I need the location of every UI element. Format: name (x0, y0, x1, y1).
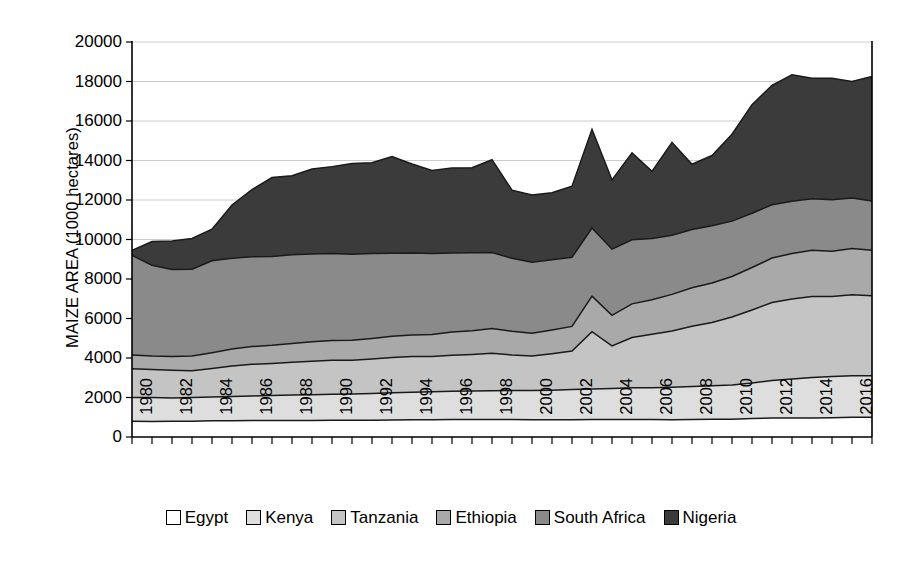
x-tick-label: 1990 (338, 378, 354, 444)
x-tick-label: 2014 (818, 378, 834, 444)
x-tick-label: 2010 (738, 378, 754, 444)
legend-swatch-icon (246, 510, 261, 525)
legend-swatch-icon (664, 510, 679, 525)
legend-item-south-africa[interactable]: South Africa (535, 509, 646, 526)
legend-label: Egypt (185, 509, 228, 526)
legend-label: Kenya (265, 509, 313, 526)
legend-item-ethiopia[interactable]: Ethiopia (436, 509, 516, 526)
x-tick-label: 1994 (418, 378, 434, 444)
legend-label: Nigeria (683, 509, 737, 526)
x-tick-label: 2016 (858, 378, 874, 444)
legend-item-tanzania[interactable]: Tanzania (331, 509, 418, 526)
x-tick-label: 1980 (138, 378, 154, 444)
x-tick-label: 1998 (498, 378, 514, 444)
legend-label: Ethiopia (455, 509, 516, 526)
legend-label: South Africa (554, 509, 646, 526)
legend-swatch-icon (166, 510, 181, 525)
legend-item-nigeria[interactable]: Nigeria (664, 509, 737, 526)
maize-area-chart-figure: MAIZE AREA (1000 hectares) 0200040006000… (0, 0, 902, 564)
x-tick-label: 2012 (778, 378, 794, 444)
legend-item-egypt[interactable]: Egypt (166, 509, 228, 526)
chart-legend: EgyptKenyaTanzaniaEthiopiaSouth AfricaNi… (0, 509, 902, 526)
x-tick-label-group: 1980198219841986198819901992199419961998… (0, 0, 902, 564)
x-tick-label: 1988 (298, 378, 314, 444)
x-tick-label: 1992 (378, 378, 394, 444)
x-tick-label: 2000 (538, 378, 554, 444)
x-tick-label: 2008 (698, 378, 714, 444)
x-tick-label: 1984 (218, 378, 234, 444)
x-tick-label: 1996 (458, 378, 474, 444)
legend-swatch-icon (331, 510, 346, 525)
legend-item-kenya[interactable]: Kenya (246, 509, 313, 526)
legend-label: Tanzania (350, 509, 418, 526)
x-tick-label: 1986 (258, 378, 274, 444)
legend-swatch-icon (535, 510, 550, 525)
x-tick-label: 2004 (618, 378, 634, 444)
x-tick-label: 2002 (578, 378, 594, 444)
x-tick-label: 1982 (178, 378, 194, 444)
x-tick-label: 2006 (658, 378, 674, 444)
legend-swatch-icon (436, 510, 451, 525)
